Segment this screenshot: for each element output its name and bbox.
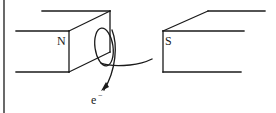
n-pole-label: N [57, 34, 66, 48]
loop-ellipse [92, 27, 115, 67]
s-magnet-top-bevel [163, 11, 208, 31]
wire-loop [92, 27, 152, 91]
electron-charge-superscript: − [98, 91, 103, 100]
wire-lead-right [101, 59, 152, 66]
north-magnet: N [16, 11, 110, 72]
s-pole-label: S [165, 34, 172, 48]
south-magnet: S [163, 11, 265, 72]
electron-symbol: e [91, 93, 96, 107]
n-magnet-bottom-bevel [69, 52, 110, 72]
magnet-diagram: N S e − [0, 0, 276, 113]
electron-label: e − [91, 91, 103, 107]
